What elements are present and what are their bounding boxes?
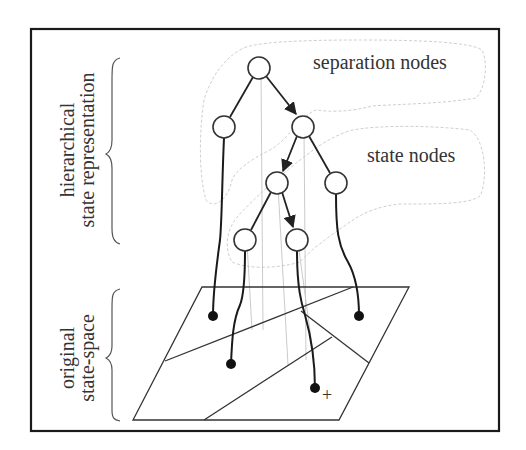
svg-text:state-space: state-space: [76, 314, 99, 402]
node-l2b: [292, 116, 314, 138]
svg-text:state representation: state representation: [76, 73, 99, 228]
node-l3b: [325, 172, 347, 194]
node-root: [248, 57, 270, 79]
tree-edges: [230, 76, 330, 230]
node-l3a: [266, 172, 288, 194]
hierarchy-diagram: hierarchical state representation origin…: [0, 0, 526, 450]
label-state-nodes: state nodes: [367, 144, 456, 166]
leaf-2: [226, 359, 236, 369]
node-l4b: [286, 229, 308, 251]
label-original: original state-space: [56, 314, 99, 402]
brace-original: [106, 289, 120, 421]
label-separation-nodes: separation nodes: [313, 51, 447, 74]
label-hierarchical: hierarchical state representation: [56, 73, 99, 228]
node-l2a: [213, 116, 235, 138]
figure-frame: [31, 29, 499, 431]
plus-marker: +: [322, 385, 332, 405]
leaf-4: [310, 383, 320, 393]
leaf-3: [354, 311, 364, 321]
state-space-plane: [133, 287, 409, 420]
leaf-1: [208, 311, 218, 321]
brace-hierarchical: [106, 58, 120, 244]
node-l4a: [234, 229, 256, 251]
svg-text:hierarchical: hierarchical: [56, 102, 78, 197]
